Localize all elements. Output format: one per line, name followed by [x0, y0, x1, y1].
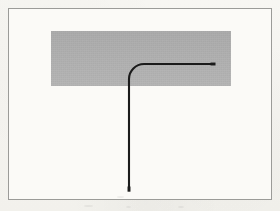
bottom-endpoint-marker — [128, 187, 131, 192]
right-endpoint-marker — [211, 63, 216, 66]
figure-page — [0, 0, 280, 211]
drawing-layer — [0, 0, 280, 211]
curved-path-line — [129, 64, 215, 191]
